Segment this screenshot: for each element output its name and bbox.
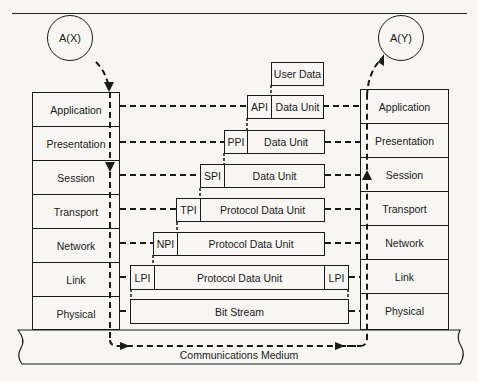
right-arrow-icon [335, 342, 345, 350]
npi-header: NPI [154, 233, 178, 255]
session-data-unit: SPI Data Unit [200, 164, 325, 188]
up-right-arrow-icon [378, 54, 384, 66]
application-data-unit: API Data Unit [247, 95, 324, 119]
user-data-box: User Data [271, 62, 324, 86]
transport-pdu-body: Protocol Data Unit [201, 199, 324, 221]
down-arrow-icon [104, 82, 114, 92]
presentation-data-unit: PPI Data Unit [224, 130, 325, 154]
right-arrow-icon [120, 342, 130, 350]
api-header: API [248, 96, 272, 118]
link-pdu-body: Protocol Data Unit [155, 266, 324, 289]
lpi-trailer: LPI [324, 266, 348, 289]
bit-stream-label: Bit Stream [131, 300, 348, 323]
ppi-header: PPI [225, 131, 248, 153]
down-arrow-icon [105, 162, 115, 172]
session-data-unit-body: Data Unit [225, 165, 324, 187]
tpi-header: TPI [177, 199, 201, 221]
presentation-data-unit-body: Data Unit [248, 131, 324, 153]
lpi-header: LPI [131, 266, 155, 289]
transport-protocol-data-unit: TPI Protocol Data Unit [176, 198, 325, 222]
application-data-unit-body: Data Unit [272, 96, 323, 118]
dashed-connectors [0, 0, 478, 382]
up-arrow-icon [362, 170, 372, 180]
user-data-label: User Data [272, 63, 323, 85]
network-protocol-data-unit: NPI Protocol Data Unit [153, 232, 325, 256]
network-pdu-body: Protocol Data Unit [178, 233, 324, 255]
spi-header: SPI [201, 165, 225, 187]
physical-bit-stream: Bit Stream [130, 299, 349, 324]
link-protocol-data-unit: LPI Protocol Data Unit LPI [130, 265, 349, 290]
